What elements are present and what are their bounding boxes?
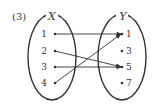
x-element: 4 <box>41 78 47 88</box>
set-x-label: X <box>47 10 57 23</box>
set-x-ellipse <box>28 14 76 100</box>
y-element: 1 <box>126 29 132 39</box>
x-element: 2 <box>41 46 47 56</box>
y-point <box>121 50 124 53</box>
y-element: 3 <box>126 46 132 56</box>
x-element: 1 <box>41 29 47 39</box>
mapping-diagram: (3) X Y 1 2 3 4 1 3 5 7 <box>0 0 153 108</box>
x-element: 3 <box>41 62 47 72</box>
set-y-ellipse <box>98 14 146 100</box>
arrow-2-to-5 <box>55 51 119 66</box>
y-point <box>121 82 124 85</box>
y-element: 7 <box>126 78 132 88</box>
arrow-4-to-1 <box>55 36 119 84</box>
y-element: 5 <box>126 62 132 72</box>
problem-number: (3) <box>12 11 26 22</box>
